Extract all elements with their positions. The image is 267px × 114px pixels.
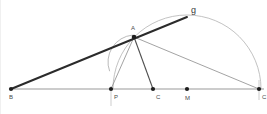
segment-a-to-cprime [134, 37, 259, 89]
geometry-figure: B P C M C A g [0, 0, 267, 114]
label-point-a: A [131, 25, 135, 31]
label-point-m: M [185, 95, 190, 101]
point-p [109, 87, 113, 91]
label-point-c: C [156, 94, 161, 100]
point-a [132, 35, 137, 40]
label-point-b: B [9, 94, 13, 100]
label-line-g: g [191, 5, 196, 15]
label-point-p: P [114, 94, 118, 100]
point-cprime [257, 87, 261, 91]
point-b [9, 87, 13, 91]
point-m [185, 87, 189, 91]
label-point-cprime: C [262, 94, 267, 100]
point-c [151, 87, 155, 91]
segment-a-to-c [134, 37, 153, 89]
ray-b-through-a-to-g [11, 17, 187, 89]
geometry-canvas: B P C M C A g [1, 0, 267, 114]
semicircle-arc [113, 15, 261, 89]
